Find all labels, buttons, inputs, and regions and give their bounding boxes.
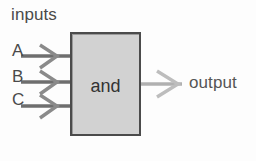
- input-wire-b: [21, 71, 71, 94]
- output-wire: [140, 71, 182, 97]
- input-label-b: B: [12, 68, 23, 85]
- input-label-a: A: [12, 42, 23, 59]
- input-wire-a: [21, 45, 71, 68]
- and-gate-box: and: [70, 32, 141, 136]
- input-label-c: C: [12, 91, 24, 108]
- input-wire-c: [21, 95, 71, 118]
- and-gate-label: and: [72, 77, 139, 95]
- logic-gate-diagram: and inputs A B C output: [0, 0, 256, 161]
- inputs-group-label: inputs: [11, 6, 57, 23]
- output-label: output: [189, 74, 237, 91]
